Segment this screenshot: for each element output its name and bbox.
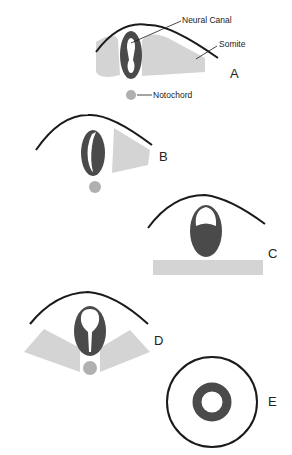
panel-a: Neural Canal Somite Notochord A <box>96 15 246 100</box>
label-somite: Somite <box>219 39 246 49</box>
panel-label-a: A <box>230 66 239 81</box>
panel-c: C <box>148 195 277 275</box>
panel-d: D <box>24 292 163 375</box>
panel-label-c: C <box>268 246 277 261</box>
somite-left-a <box>96 35 120 76</box>
outer-ring-e <box>167 357 257 447</box>
panel-label-b: B <box>159 149 168 164</box>
notochord-a <box>126 90 136 100</box>
panel-e: E <box>167 357 277 447</box>
panel-label-d: D <box>154 333 163 348</box>
neural-tube-diagram: Neural Canal Somite Notochord A B C D E <box>0 0 292 455</box>
panel-b: B <box>36 115 168 193</box>
somite-right-a <box>142 34 205 76</box>
somite-leader <box>196 46 217 59</box>
notochord-d <box>83 361 97 375</box>
notochord-b <box>89 181 101 193</box>
neural-tube-e <box>197 387 227 417</box>
somite-left-d <box>24 329 80 372</box>
label-notochord: Notochord <box>153 90 192 100</box>
label-neural-canal: Neural Canal <box>182 15 232 25</box>
panel-label-e: E <box>268 394 277 409</box>
notochord-plate-c <box>153 260 263 275</box>
somite-right-d <box>100 330 150 372</box>
somite-b <box>112 128 150 173</box>
